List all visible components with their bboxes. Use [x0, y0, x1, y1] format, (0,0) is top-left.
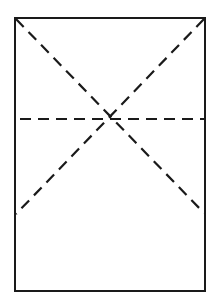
diagram-canvas	[0, 0, 220, 306]
outer-rectangle	[15, 18, 205, 291]
